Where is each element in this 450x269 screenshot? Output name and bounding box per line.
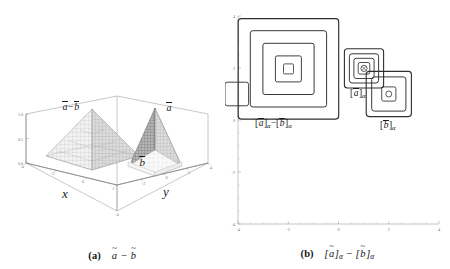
center-dot-icon [386,91,392,97]
y-axis-label: y [163,184,169,200]
b-bar-glyph: b [74,101,80,112]
x-tick-label: 0 [82,179,84,184]
y-tick-label: 0 [166,175,168,180]
contour-plot-svg: 4 2 0 -2 -4 -4 -2 [225,0,450,269]
front-corner-drop: -4 [116,185,119,217]
surface-plot-svg: 1.0 0.5 0.0 [0,0,225,269]
x-axis-ticks: -4 -2 0 2 4 [236,221,441,232]
x-tick-label: 4 [438,227,441,232]
y-tick-label: 0 [233,118,235,123]
contour-label-a-minus-b: [a]α−[b]α [255,118,292,129]
x-axis: -4 -2 0 2 [20,163,117,191]
y-tick-label: -2 [142,181,145,186]
caption-tag: (b) [301,248,314,259]
contour-group-a-minus-b [238,19,339,120]
z-tick-label: 0.5 [18,137,23,142]
caption-tag: (a) [88,250,101,261]
x-tick-label: 2 [388,227,390,232]
y-tick-label: -2 [232,170,236,175]
a-bar-glyph: a [166,102,172,113]
x-tick-label: -2 [51,171,54,176]
x-tick-label: 2 [113,186,115,191]
y-tick-label: 4 [233,14,236,19]
y-tick-label: -4 [232,222,236,227]
x-marker-icon [362,66,366,70]
y-axis-ticks: 4 2 0 -2 -4 [232,14,242,227]
panel-b-contour-plot: 4 2 0 -2 -4 -4 -2 [225,0,450,269]
surface-a-minus-b [46,109,139,170]
caption-panel-a: (a) a − b [0,250,225,261]
contour-label-a: [a]α [350,88,366,99]
y-tick-label: 2 [188,170,190,175]
x-tick-label: -4 [20,164,23,169]
z-axis: 1.0 0.5 0.0 [18,112,29,166]
caption-math: [a]α − [b]α [324,248,374,259]
contour-group-a [344,49,383,88]
caption-panel-b: (b) [a]α − [b]α [225,248,450,261]
caption-math: a − b [111,250,136,261]
x-tick-label: -2 [287,227,291,232]
x-tick-label: 0 [337,227,339,232]
x-tick-label: -4 [236,227,240,232]
y-tick-label: 2 [233,66,235,71]
contour-label-b: [b]α [380,120,396,131]
z-tick-label: 1.0 [18,112,23,117]
surface-label-b-bar: b [139,156,146,168]
panel-a-surface-plot: 1.0 0.5 0.0 [0,0,225,269]
b-bar-glyph: b [139,156,146,168]
origin-corner-tick: -4 [116,213,119,217]
x-axis-label: x [62,186,68,202]
surface-label-a-minus-b: a−b [62,101,80,112]
a-bar-glyph: a [62,101,68,112]
figure-root: 1.0 0.5 0.0 [0,0,450,269]
y-tick-label: 4 [210,165,212,170]
surface-label-a-bar: a [166,102,172,113]
